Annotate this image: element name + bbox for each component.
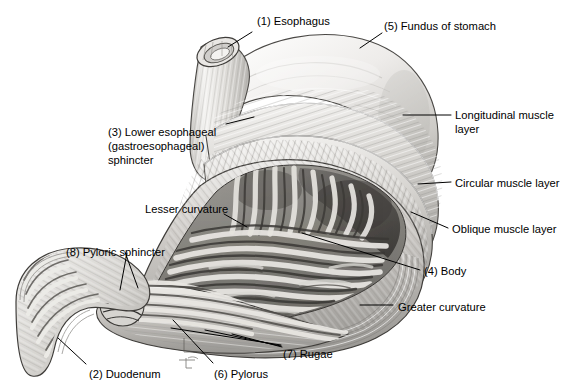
label-lower-esophageal-sphincter-line1: (3) Lower esophageal (108, 126, 216, 139)
label-body: (4) Body (424, 265, 466, 278)
label-pylorus: (6) Pylorus (214, 368, 268, 381)
label-rugae: (7) Rugae (283, 348, 333, 361)
label-esophagus: (1) Esophagus (257, 15, 330, 28)
stomach-illustration (0, 0, 581, 389)
leader-duodenum (58, 338, 86, 364)
label-lower-esophageal-sphincter-line3: sphincter (108, 154, 153, 167)
label-greater-curvature: Greater curvature (398, 301, 486, 314)
label-duodenum: (2) Duodenum (89, 368, 161, 381)
label-circular-muscle-layer: Circular muscle layer (455, 177, 559, 190)
label-lesser-curvature: Lesser curvature (145, 203, 228, 216)
label-longitudinal-muscle-layer-line2: layer (455, 123, 479, 136)
label-oblique-muscle-layer: Oblique muscle layer (452, 223, 556, 236)
label-pyloric-sphincter: (8) Pyloric sphincter (66, 246, 165, 259)
stomach-anatomy-figure: (1) Esophagus (5) Fundus of stomach (3) … (0, 0, 581, 389)
label-longitudinal-muscle-layer-line1: Longitudinal muscle (455, 109, 554, 122)
label-fundus-of-stomach: (5) Fundus of stomach (384, 20, 496, 33)
label-lower-esophageal-sphincter-line2: (gastroesophageal) (108, 140, 204, 153)
